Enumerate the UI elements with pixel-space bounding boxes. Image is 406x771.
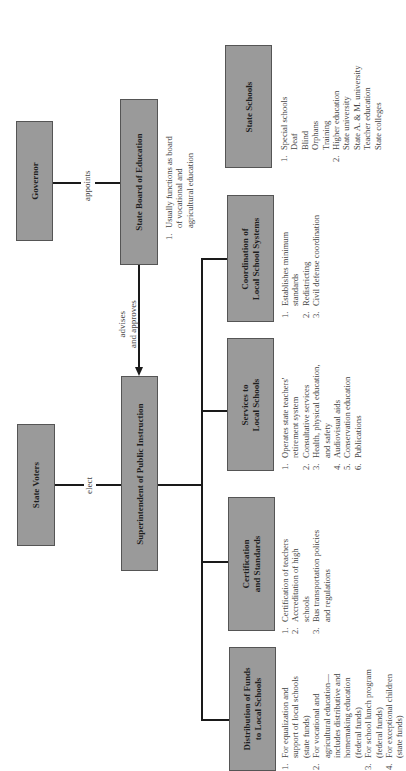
state-board-label: State Board of Education [134,133,145,230]
state-schools-label: State Schools [243,81,254,132]
state-voters-label: State Voters [31,462,42,508]
note-item: 1.Special schools Deaf Blind Orphans Tra… [279,65,331,162]
note-item: 3.Health, physical education, and safety [311,364,332,470]
services-box: Services to Local Schools [227,338,274,471]
certification-box: Certification and Standards [228,497,275,631]
distribution-notes: 1.For equalization and support of local … [280,669,405,770]
governor-box: Governor [16,121,53,241]
note-item: 2.Redistricting [301,215,311,318]
advises-arrowhead-icon [135,367,143,376]
branch-certification [201,561,228,563]
coordination-label: Coordination of Local School Systems [240,217,262,300]
note-item: 1.For equalization and support of local … [280,669,311,770]
branch-coordination [201,258,227,260]
appoints-connector-right [95,182,121,184]
note-item: 3.Bus transportation policies and regula… [311,530,332,634]
note-item: 6.Publications [353,364,363,470]
state-schools-notes: 1.Special schools Deaf Blind Orphans Tra… [279,65,383,162]
branch-services [201,410,227,412]
state-voters-box: State Voters [17,424,55,546]
elect-connector-left [55,484,84,486]
certification-label: Certification and Standards [241,536,263,592]
governor-label: Governor [29,162,40,200]
note-item: 2.Consultative services [301,364,311,470]
note-item: 2.Accreditation of high schools [290,530,311,634]
distribution-box: Distribution of Funds to Local Schools [229,647,276,771]
elect-label: elect [84,477,95,494]
branch-distribution [201,719,229,721]
appoints-label: appoints [82,171,93,202]
services-label: Services to Local Schools [240,378,262,431]
note-item: 4.Audiovisual aids [332,364,342,470]
superintendent-box: Superintendent of Public Instruction [121,376,158,571]
distribution-label: Distribution of Funds to Local Schools [242,667,264,750]
state-board-notes: 1.Usually functions as board of vocation… [164,136,195,240]
note-item: 1.Usually functions as board of vocation… [164,136,195,240]
appoints-connector-left [53,182,81,184]
elect-connector-right [96,484,121,486]
note-item: 5.Conservation education [342,364,352,470]
coordination-notes: 1.Establishes minimum standards 2.Redist… [280,215,322,318]
state-board-box: State Board of Education [120,99,158,265]
services-notes: 1.Operates state teachers' retirement sy… [280,364,363,470]
note-item: 1.Certification of teachers [280,530,290,634]
superintendent-to-bus [158,484,202,486]
note-item: 4.For exceptional children (state funds) [384,669,405,770]
state-schools-box: State Schools [225,45,272,168]
note-item: 3.Civil defense coordination [311,215,321,318]
advises-label: advises and approves [117,300,138,348]
certification-notes: 1.Certification of teachers 2.Accreditat… [280,530,332,634]
note-item: 2.Higher education State university Stat… [331,65,383,162]
superintendent-label: Superintendent of Public Instruction [134,403,145,544]
note-item: 3.For school lunch program (federal fund… [363,669,384,770]
note-item: 1.Establishes minimum standards [280,215,301,318]
note-item: 2.For vocational and agricultural educat… [311,669,363,770]
advises-arrow-line [138,264,140,367]
divisions-bus [201,258,203,721]
coordination-box: Coordination of Local School Systems [227,195,274,322]
note-item: 1.Operates state teachers' retirement sy… [280,364,301,470]
